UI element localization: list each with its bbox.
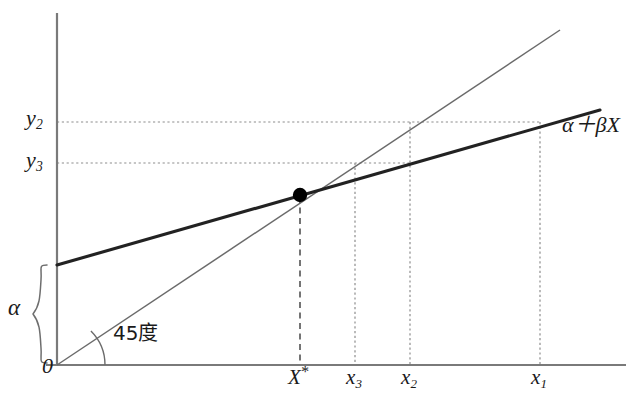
x2-subscript: 2	[411, 376, 418, 391]
angle-label-45-degrees: 45度	[113, 323, 158, 343]
x-tick-label-x-star: X*	[288, 367, 309, 388]
intersection-point-marker	[293, 188, 307, 202]
y-tick-label-y2: y2	[26, 107, 43, 129]
x-tick-label-x2: x2	[401, 367, 417, 388]
alpha-intercept-label: α	[8, 296, 20, 319]
x3-subscript: 3	[356, 376, 363, 391]
regression-line-equation-label: α＋βX	[562, 114, 620, 136]
x-star-superscript: *	[301, 363, 309, 380]
x-tick-label-x3: x3	[346, 367, 362, 388]
y2-subscript: 2	[36, 117, 43, 132]
x-tick-label-x1: x1	[531, 367, 547, 388]
angle-arc	[91, 331, 105, 365]
cobweb-diagram-figure: y2 y3 α 0 45度 X* x3 x2 x1 α＋βX	[0, 0, 634, 405]
origin-label: 0	[42, 355, 53, 377]
alpha-brace	[33, 265, 47, 363]
regression-line-alpha-beta-x	[57, 110, 600, 265]
y3-subscript: 3	[36, 159, 43, 174]
diagram-canvas	[0, 0, 634, 405]
y-tick-label-y3: y3	[26, 149, 43, 171]
axes	[46, 13, 626, 366]
x1-subscript: 1	[541, 376, 548, 391]
forty-five-degree-line	[57, 30, 560, 365]
